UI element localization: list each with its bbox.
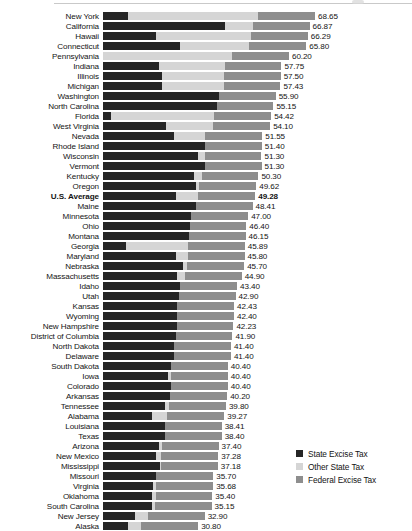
stacked-bar <box>103 372 228 380</box>
row-label: Utah <box>0 292 103 301</box>
stacked-bar <box>103 112 271 120</box>
federal-excise-segment <box>167 412 224 420</box>
stacked-bar <box>103 302 234 310</box>
stacked-bar <box>103 312 234 320</box>
row-value-label: 40.20 <box>227 392 250 401</box>
state-excise-segment <box>103 72 162 80</box>
state-excise-segment <box>103 62 159 70</box>
chart-row: Ohio46.40 <box>0 221 412 231</box>
row-label: Nevada <box>0 132 103 141</box>
chart-row: Vermont51.30 <box>0 161 412 171</box>
row-value-label: 39.80 <box>226 402 249 411</box>
federal-excise-segment <box>251 32 308 40</box>
federal-excise-segment <box>161 462 218 470</box>
row-label: Maryland <box>0 252 103 261</box>
row-label: Louisiana <box>0 422 103 431</box>
stacked-bar <box>103 362 228 370</box>
row-label: New Hampshire <box>0 322 103 331</box>
legend-item[interactable]: Other State Tax <box>296 460 412 473</box>
chart-row: Idaho43.40 <box>0 281 412 291</box>
row-value-label: 51.30 <box>262 162 285 171</box>
other-state-segment <box>225 22 253 30</box>
state-excise-segment <box>103 512 135 520</box>
legend-item[interactable]: Federal Excise Tax <box>296 473 412 486</box>
federal-excise-segment <box>224 72 281 80</box>
row-label: Mississippi <box>0 462 103 471</box>
row-label: Iowa <box>0 372 103 381</box>
stacked-bar <box>103 352 231 360</box>
stacked-bar <box>103 222 246 230</box>
row-value-label: 37.28 <box>218 452 241 461</box>
chart-row: Kentucky50.30 <box>0 171 412 181</box>
chart-row: Montana46.15 <box>0 231 412 241</box>
chart-row: South Carolina35.15 <box>0 501 412 511</box>
chart-row: Florida54.42 <box>0 111 412 121</box>
state-excise-tax-swatch <box>296 450 303 457</box>
row-label: West Virginia <box>0 122 103 131</box>
row-label: Arizona <box>0 442 103 451</box>
row-label: North Carolina <box>0 102 103 111</box>
state-excise-segment <box>103 182 196 190</box>
row-label: Wisconsin <box>0 152 103 161</box>
federal-excise-segment <box>155 502 212 510</box>
state-excise-segment <box>103 452 156 460</box>
stacked-bar <box>103 412 224 420</box>
chart-legend: State Excise TaxOther State TaxFederal E… <box>296 447 412 486</box>
other-state-segment <box>135 512 147 520</box>
federal-excise-segment <box>148 512 205 520</box>
chart-row: Oregon49.62 <box>0 181 412 191</box>
federal-excise-segment <box>156 472 213 480</box>
state-excise-segment <box>103 302 177 310</box>
row-value-label: 44.90 <box>242 272 265 281</box>
row-label: Colorado <box>0 382 103 391</box>
federal-excise-segment <box>189 232 246 240</box>
state-excise-segment <box>103 222 190 230</box>
row-value-label: 47.00 <box>248 212 271 221</box>
row-label: Massachusetts <box>0 272 103 281</box>
chart-row: Georgia45.89 <box>0 241 412 251</box>
row-label: Oklahoma <box>0 492 103 501</box>
row-value-label: 49.28 <box>255 192 278 201</box>
row-label: Pennsylvania <box>0 52 103 61</box>
stacked-bar <box>103 212 248 220</box>
stacked-bar <box>103 152 261 160</box>
other-state-tax-swatch <box>296 463 303 470</box>
state-excise-segment <box>103 172 194 180</box>
other-state-segment <box>103 52 232 60</box>
row-label: Vermont <box>0 162 103 171</box>
row-value-label: 42.23 <box>233 322 256 331</box>
chart-row: Washington55.90 <box>0 91 412 101</box>
row-label: Delaware <box>0 352 103 361</box>
other-state-segment <box>126 242 188 250</box>
stacked-bar <box>103 12 315 20</box>
row-value-label: 46.40 <box>246 222 269 231</box>
row-value-label: 46.15 <box>246 232 269 241</box>
row-value-label: 35.70 <box>213 472 236 481</box>
state-excise-segment <box>103 462 160 470</box>
stacked-bar <box>103 262 244 270</box>
state-excise-segment <box>103 432 165 440</box>
state-excise-segment <box>103 352 174 360</box>
chart-row: Colorado40.40 <box>0 381 412 391</box>
stacked-bar <box>103 162 262 170</box>
state-excise-segment <box>103 212 191 220</box>
stacked-bar <box>103 252 245 260</box>
row-label: Oregon <box>0 182 103 191</box>
row-label: Florida <box>0 112 103 121</box>
row-value-label: 54.42 <box>271 112 294 121</box>
legend-item[interactable]: State Excise Tax <box>296 447 412 460</box>
row-label: Connecticut <box>0 42 103 51</box>
row-value-label: 68.65 <box>315 12 338 21</box>
state-excise-segment <box>103 192 176 200</box>
federal-excise-segment <box>141 522 198 530</box>
chart-row: North Carolina55.15 <box>0 101 412 111</box>
row-label: California <box>0 22 103 31</box>
stacked-bar <box>103 92 276 100</box>
row-value-label: 32.90 <box>205 512 228 521</box>
state-excise-segment <box>103 262 183 270</box>
state-excise-segment <box>103 402 165 410</box>
state-excise-segment <box>103 32 156 40</box>
chart-row: Indiana57.75 <box>0 61 412 71</box>
legend-label: Other State Tax <box>308 462 364 472</box>
